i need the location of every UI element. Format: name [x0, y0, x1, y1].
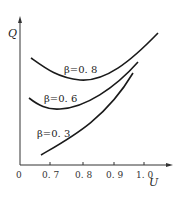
- x-tick-label: 0. 8: [75, 170, 92, 180]
- curve-label-beta-0.3: β=0. 3: [37, 128, 70, 139]
- y-axis-arrow-icon: [18, 16, 22, 23]
- y-axis-label: Q: [8, 27, 17, 40]
- x-tick-label: 0. 7: [42, 170, 59, 180]
- x-tick-label: 0. 9: [106, 170, 123, 180]
- chart: Q U 0 0. 7 0. 8 0. 9 1. 0 β=0. 8 β=0. 6 …: [0, 0, 181, 197]
- curve-beta-0.3: [41, 73, 133, 155]
- x-axis-arrow-icon: [166, 163, 173, 167]
- x-tick-label: 1. 0: [136, 170, 153, 180]
- origin-label: 0: [16, 170, 22, 180]
- curve-label-beta-0.6: β=0. 6: [44, 93, 77, 104]
- curve-label-beta-0.8: β=0. 8: [64, 64, 97, 75]
